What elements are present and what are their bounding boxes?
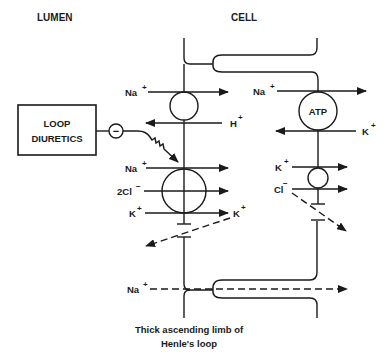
lumen-header: LUMEN — [37, 12, 73, 23]
inhibition-arrow-icon — [164, 149, 178, 162]
svg-text:K: K — [129, 208, 136, 219]
svg-text:+: + — [142, 159, 147, 168]
svg-text:2Cl: 2Cl — [117, 186, 132, 197]
na-k-atpase: Na + ATP K + — [253, 82, 376, 137]
svg-text:+: + — [238, 113, 243, 122]
cl-channel-arrow-icon — [292, 193, 346, 231]
svg-text:K: K — [362, 126, 369, 137]
paracellular-na: Na + — [127, 280, 347, 295]
apical-membrane — [177, 38, 318, 318]
basolateral-membrane — [311, 130, 325, 220]
svg-text:+: + — [371, 121, 376, 130]
k-recycle-arrow-icon — [146, 218, 230, 246]
kcl-circle — [308, 168, 328, 188]
nkcc2-cotransporter: Na + 2Cl − K + K + — [117, 159, 246, 219]
svg-text:+: + — [241, 203, 246, 212]
svg-text:+: + — [284, 157, 289, 166]
minus-sign: − — [113, 125, 119, 137]
svg-text:+: + — [143, 280, 148, 289]
svg-text:Na: Na — [127, 284, 140, 295]
kcl-cotransporter: K + Cl − — [274, 157, 347, 195]
svg-text:Na: Na — [253, 86, 266, 97]
h-label: H — [230, 118, 237, 129]
svg-text:+: + — [137, 204, 142, 213]
loop-diuretics-box — [18, 105, 96, 155]
svg-text:−: − — [136, 182, 141, 191]
caption-line2: Henle's loop — [161, 338, 217, 349]
nephron-transport-diagram: LUMEN CELL LOOP DIURETICS − Na + — [0, 0, 389, 362]
drug-label-line2: DIURETICS — [31, 133, 82, 144]
svg-text:+: + — [270, 82, 275, 91]
svg-text:K: K — [275, 162, 282, 173]
svg-text:−: − — [283, 179, 288, 188]
svg-text:Na: Na — [125, 163, 138, 174]
cell-header: CELL — [231, 12, 257, 23]
na-label: Na — [125, 87, 138, 98]
svg-text:+: + — [142, 83, 147, 92]
inhibition-squiggle — [123, 131, 164, 149]
svg-text:K: K — [233, 208, 240, 219]
tight-junction-bottom — [213, 221, 317, 318]
atp-label: ATP — [309, 106, 328, 117]
exchanger-circle — [170, 92, 198, 120]
caption-line1: Thick ascending limb of — [135, 324, 244, 335]
drug-label-line1: LOOP — [44, 118, 72, 129]
